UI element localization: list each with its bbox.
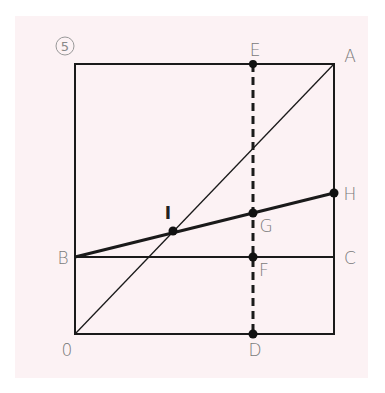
point-H [330, 189, 339, 198]
label-G: G [259, 216, 272, 236]
label-C: C [344, 248, 356, 268]
label-E: E [250, 40, 261, 60]
point-E [249, 60, 257, 68]
point-F [249, 253, 258, 262]
label-B: B [57, 248, 68, 268]
geometry-diagram: 5 E A H G C F B 0 D I [0, 0, 385, 393]
point-G [249, 209, 258, 218]
point-D [249, 330, 258, 339]
diagonal-line-OA [75, 64, 334, 334]
label-I: I [165, 203, 171, 223]
figure-number-badge: 5 [56, 37, 74, 55]
point-I [169, 227, 178, 236]
label-F: F [259, 260, 269, 280]
label-D: D [248, 340, 261, 360]
label-A: A [344, 46, 356, 66]
badge-number: 5 [61, 39, 69, 54]
label-O: 0 [62, 340, 73, 360]
label-H: H [344, 184, 357, 204]
line-BH [75, 193, 334, 257]
